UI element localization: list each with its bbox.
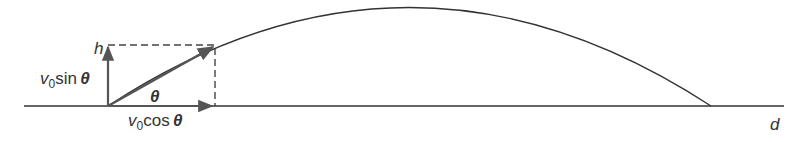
height-label: h — [94, 40, 103, 57]
vertical-component-label: v0sin θ — [40, 70, 90, 87]
initial-velocity-arrow — [108, 47, 213, 106]
angle-label: θ — [150, 88, 159, 105]
distance-label: d — [770, 116, 779, 133]
projectile-diagram — [0, 0, 801, 142]
trajectory-curve — [108, 8, 711, 107]
horizontal-component-label: v0cos θ — [128, 112, 183, 129]
